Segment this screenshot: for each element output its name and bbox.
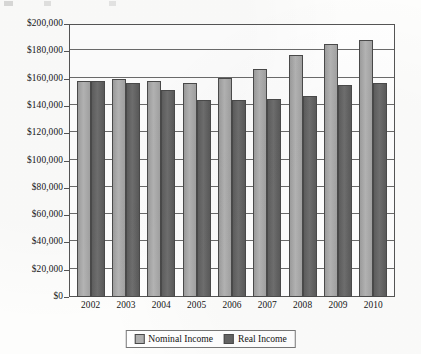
real-income-bar bbox=[267, 99, 281, 297]
y-axis-tick-label: $160,000 bbox=[27, 74, 63, 83]
nominal-income-bar bbox=[359, 40, 373, 297]
nominal-income-bar bbox=[289, 55, 303, 297]
nominal-income-bar bbox=[253, 69, 267, 297]
real-income-bar bbox=[303, 96, 317, 297]
x-axis-tick-label: 2010 bbox=[356, 300, 391, 311]
bar-chart: $0$20,000$40,000$60,000$80,000$100,000$1… bbox=[0, 0, 421, 354]
y-axis-tick-label: $80,000 bbox=[32, 183, 63, 192]
x-axis-tick-label: 2009 bbox=[320, 300, 355, 311]
y-axis-tick-label: $100,000 bbox=[27, 156, 63, 165]
x-axis-tick-label: 2004 bbox=[144, 300, 179, 311]
nominal-income-bar bbox=[218, 78, 232, 297]
x-axis-tick-label: 2008 bbox=[285, 300, 320, 311]
bar-group bbox=[179, 24, 214, 297]
real-income-bar bbox=[338, 85, 352, 297]
real-income-bar bbox=[232, 100, 246, 297]
real-income-bar bbox=[91, 81, 105, 297]
y-axis-tick-label: $40,000 bbox=[32, 237, 63, 246]
real-income-bar bbox=[373, 83, 387, 297]
real-income-bar bbox=[197, 100, 211, 297]
x-axis-tick-label: 2006 bbox=[214, 300, 249, 311]
y-axis-tick-mark bbox=[64, 297, 69, 298]
x-axis-tick-label: 2002 bbox=[73, 300, 108, 311]
legend-item-label: Real Income bbox=[238, 333, 287, 344]
bar-group bbox=[356, 24, 391, 297]
real-swatch bbox=[224, 334, 234, 344]
bar-group bbox=[320, 24, 355, 297]
nominal-income-bar bbox=[77, 81, 91, 297]
legend-item[interactable]: Real Income bbox=[224, 333, 287, 344]
bar-group bbox=[108, 24, 143, 297]
bar-group bbox=[250, 24, 285, 297]
nominal-swatch bbox=[134, 334, 144, 344]
bar-group bbox=[285, 24, 320, 297]
real-income-bar bbox=[126, 83, 140, 297]
nominal-income-bar bbox=[324, 44, 338, 297]
nominal-income-bar bbox=[147, 81, 161, 297]
x-axis-tick-label: 2005 bbox=[179, 300, 214, 311]
x-axis-tick-label: 2003 bbox=[108, 300, 143, 311]
x-axis-tick-label: 2007 bbox=[250, 300, 285, 311]
legend-item[interactable]: Nominal Income bbox=[134, 333, 213, 344]
bar-group bbox=[144, 24, 179, 297]
y-axis-tick-label: $200,000 bbox=[27, 19, 63, 28]
y-axis-tick-label: $120,000 bbox=[27, 128, 63, 137]
nominal-income-bar bbox=[183, 83, 197, 297]
chart-legend: Nominal IncomeReal Income bbox=[125, 330, 296, 348]
y-axis-tick-label: $140,000 bbox=[27, 101, 63, 110]
y-axis-tick-label: $0 bbox=[53, 292, 63, 301]
y-axis-tick-label: $60,000 bbox=[32, 210, 63, 219]
y-axis-tick-label: $180,000 bbox=[27, 46, 63, 55]
x-axis-labels: 200220032004200520062007200820092010 bbox=[69, 300, 395, 311]
real-income-bar bbox=[161, 90, 175, 297]
legend-item-label: Nominal Income bbox=[148, 333, 213, 344]
y-axis-tick-label: $20,000 bbox=[32, 265, 63, 274]
nominal-income-bar bbox=[112, 79, 126, 297]
bar-group bbox=[73, 24, 108, 297]
bar-groups bbox=[69, 24, 395, 297]
bar-group bbox=[214, 24, 249, 297]
